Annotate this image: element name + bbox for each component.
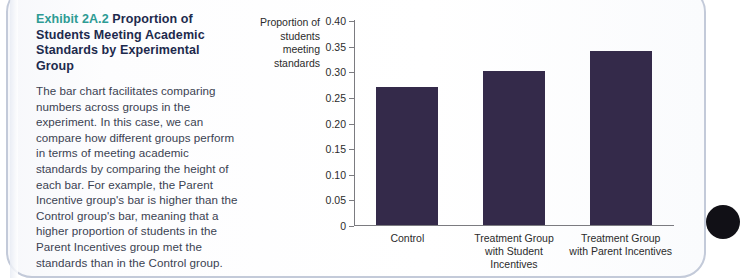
bar [483, 71, 545, 225]
exhibit-heading: Exhibit 2A.2 Proportion of Students Meet… [36, 12, 241, 74]
y-tick-mark [349, 226, 354, 227]
y-tick-mark [349, 149, 354, 150]
y-tick-mark [349, 98, 354, 99]
y-tick-label: 0 [340, 220, 346, 232]
y-tick-label: 0.10 [326, 169, 346, 181]
y-tick-mark [349, 175, 354, 176]
exhibit-body-text: The bar chart facilitates comparing numb… [36, 83, 241, 270]
x-axis-label: Control [354, 232, 461, 245]
bar [590, 51, 652, 225]
y-tick-label: 0.20 [326, 118, 346, 130]
y-tick-label: 0.40 [326, 15, 346, 27]
y-tick-mark [349, 72, 354, 73]
y-tick-label: 0.15 [326, 143, 346, 155]
panel-edge-sheen [10, 0, 18, 278]
x-axis-line [354, 225, 674, 226]
y-tick-label: 0.30 [326, 66, 346, 78]
x-axis-label: Treatment Group with Student Incentives [461, 232, 568, 271]
y-tick-mark [349, 21, 354, 22]
y-axis-line [354, 20, 355, 226]
bar [376, 87, 438, 225]
bar-chart: Proportion of students meeting standards… [250, 8, 702, 260]
y-tick-mark [349, 47, 354, 48]
y-tick-label: 0.35 [326, 41, 346, 53]
plot-area: 0.400.350.300.250.200.150.100.050 Contro… [354, 20, 674, 226]
exhibit-number: Exhibit 2A.2 [36, 12, 109, 26]
x-axis-label: Treatment Group with Parent Incentives [567, 232, 674, 258]
y-tick-label: 0.05 [326, 194, 346, 206]
page-edge-dot [706, 205, 740, 239]
y-axis-title: Proportion of students meeting standards [250, 16, 320, 70]
y-tick-label: 0.25 [326, 92, 346, 104]
exhibit-text-column: Exhibit 2A.2 Proportion of Students Meet… [36, 12, 241, 270]
y-tick-mark [349, 124, 354, 125]
y-tick-mark [349, 200, 354, 201]
